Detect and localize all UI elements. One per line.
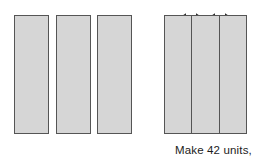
left-strip-3 — [97, 15, 132, 134]
left-strip-2 — [56, 15, 91, 134]
diagram-figure: Make 42 units, — [0, 0, 261, 159]
figure-caption: Make 42 units, — [175, 144, 252, 157]
joined-strip-3 — [220, 16, 246, 133]
joined-strip-2 — [192, 16, 219, 133]
joined-strip-1 — [165, 16, 192, 133]
left-strip-1 — [14, 15, 49, 134]
right-joined-block — [164, 15, 247, 134]
